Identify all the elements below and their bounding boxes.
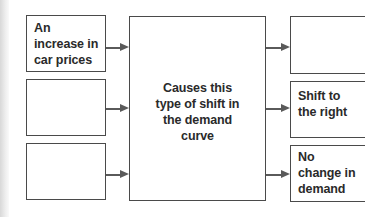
result-box-3: No change in demand	[290, 145, 365, 202]
arrow-right-icon	[106, 170, 129, 179]
arrow-right-icon	[106, 104, 129, 113]
cause-box-1-text: An increase in car prices	[34, 20, 98, 68]
arrow-right-icon	[266, 104, 290, 113]
arrow-right-icon	[266, 43, 290, 52]
result-box-2-text: Shift to the right	[298, 88, 347, 120]
result-box-2: Shift to the right	[290, 81, 365, 138]
arrow-right-icon	[106, 43, 129, 52]
center-effect-text: Causes this type of shift in the demand …	[130, 80, 265, 144]
cause-box-2	[26, 79, 106, 136]
center-effect-box: Causes this type of shift in the demand …	[129, 16, 266, 201]
result-box-3-text: No change in demand	[298, 149, 355, 197]
arrow-right-icon	[266, 170, 290, 179]
result-box-1	[290, 16, 365, 74]
cause-box-3	[26, 143, 106, 200]
cause-box-1: An increase in car prices	[26, 15, 106, 72]
page-edge-shadow	[0, 0, 9, 217]
